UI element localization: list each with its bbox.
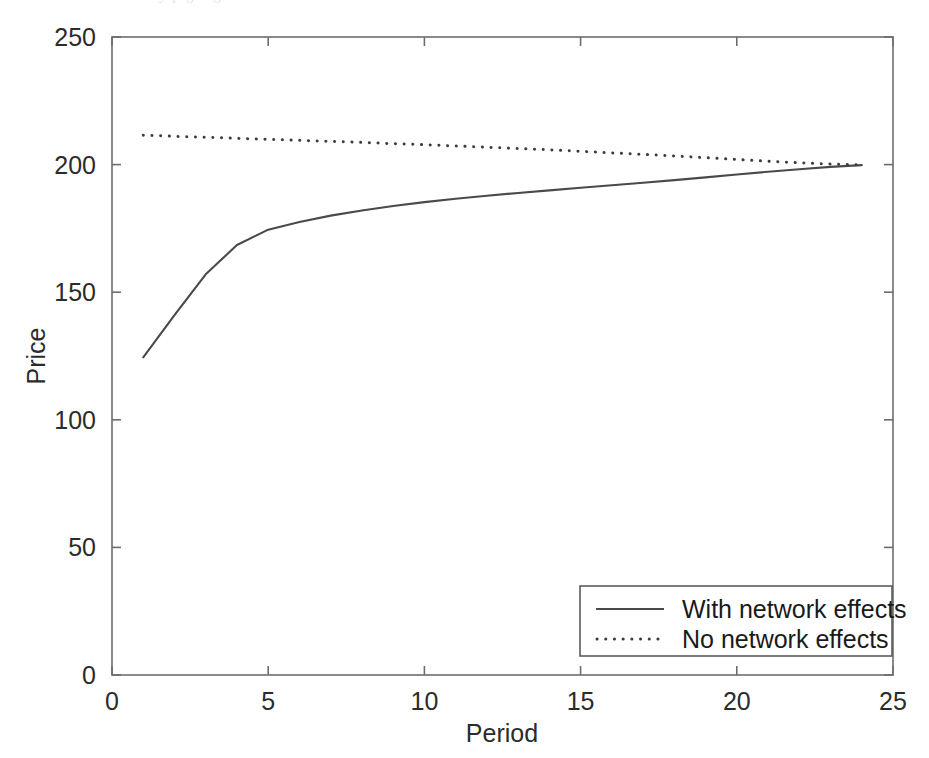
figure-canvas: by p g o g 050100150200250 0510152025 Pr… [0, 0, 929, 758]
y-tick-label: 50 [68, 533, 96, 561]
y-tick-label: 0 [82, 661, 96, 689]
y-axis-title: Price [22, 328, 50, 385]
y-axis-tick-labels: 050100150200250 [54, 23, 96, 689]
plot-frame [112, 37, 893, 675]
chart-legend[interactable]: With network effects No network effects [580, 586, 907, 656]
y-tick-label: 250 [54, 23, 96, 51]
x-axis-tick-labels: 0510152025 [105, 687, 907, 715]
x-tick-label: 10 [410, 687, 438, 715]
series-no-network-effects [143, 135, 862, 165]
x-tick-label: 0 [105, 687, 119, 715]
y-axis-ticks [112, 37, 893, 675]
y-tick-label: 150 [54, 278, 96, 306]
x-tick-label: 25 [879, 687, 907, 715]
price-period-line-chart: 050100150200250 0510152025 Price Period … [0, 0, 929, 758]
legend-label-no-network-effects: No network effects [682, 625, 889, 653]
x-tick-label: 20 [723, 687, 751, 715]
series-with-network-effects [143, 165, 862, 357]
y-tick-label: 100 [54, 406, 96, 434]
legend-label-with-network-effects: With network effects [682, 595, 907, 623]
x-axis-title: Period [466, 719, 538, 747]
x-axis-ticks [112, 37, 893, 675]
x-tick-label: 5 [261, 687, 275, 715]
x-tick-label: 15 [567, 687, 595, 715]
y-tick-label: 200 [54, 151, 96, 179]
